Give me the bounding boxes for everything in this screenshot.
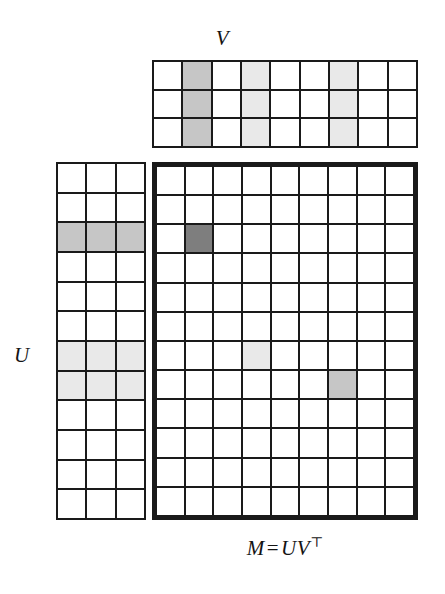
matrix-cell — [272, 196, 299, 223]
matrix-cell — [300, 313, 327, 340]
matrix-cell — [183, 119, 210, 146]
matrix-cell — [300, 196, 327, 223]
matrix-cell — [154, 62, 181, 89]
matrix-cell — [58, 283, 85, 311]
matrix-cell — [157, 400, 184, 427]
matrix-cell — [358, 313, 385, 340]
matrix-cell — [329, 167, 356, 194]
matrix-cell — [214, 313, 241, 340]
matrix-cell — [87, 461, 114, 489]
matrix-cell — [272, 400, 299, 427]
matrix-cell — [117, 253, 144, 281]
matrix-cell — [329, 254, 356, 281]
matrix-cell — [389, 62, 416, 89]
matrix-cell — [117, 283, 144, 311]
matrix-cell — [154, 119, 181, 146]
matrix-cell — [117, 194, 144, 222]
matrix-cell — [272, 371, 299, 398]
matrix-cell — [186, 459, 213, 486]
matrix-cell — [117, 461, 144, 489]
matrix-cell — [87, 342, 114, 370]
matrix-cell — [271, 91, 298, 118]
matrix-cell — [157, 429, 184, 456]
matrix-cell — [329, 225, 356, 252]
matrix-cell — [359, 62, 386, 89]
matrix-cell — [58, 253, 85, 281]
matrix-cell — [87, 312, 114, 340]
matrix-factorization-figure: V U M=UV⊤ — [0, 0, 445, 594]
matrix-cell — [300, 167, 327, 194]
matrix-cell — [272, 429, 299, 456]
matrix-cell — [386, 371, 413, 398]
matrix-cell — [386, 284, 413, 311]
matrix-cell — [329, 342, 356, 369]
matrix-cell — [186, 254, 213, 281]
matrix-cell — [272, 459, 299, 486]
caption-uv-symbol: UV — [281, 536, 310, 560]
matrix-cell — [117, 401, 144, 429]
matrix-cell — [243, 371, 270, 398]
matrix-cell — [329, 196, 356, 223]
matrix-cell — [117, 223, 144, 251]
matrix-cell — [87, 490, 114, 518]
matrix-cell — [157, 225, 184, 252]
matrix-cell — [243, 342, 270, 369]
matrix-cell — [214, 400, 241, 427]
matrix-cell — [87, 223, 114, 251]
matrix-cell — [243, 225, 270, 252]
matrix-cell — [87, 372, 114, 400]
matrix-cell — [186, 284, 213, 311]
matrix-cell — [386, 459, 413, 486]
matrix-m — [152, 162, 418, 520]
matrix-cell — [358, 459, 385, 486]
matrix-cell — [389, 119, 416, 146]
caption-transpose-symbol: ⊤ — [310, 535, 323, 550]
matrix-cell — [186, 429, 213, 456]
matrix-cell — [214, 488, 241, 515]
caption-equals-sign: = — [265, 536, 281, 560]
matrix-cell — [243, 284, 270, 311]
matrix-cell — [386, 196, 413, 223]
matrix-cell — [117, 342, 144, 370]
matrix-cell — [242, 119, 269, 146]
matrix-cell — [214, 284, 241, 311]
matrix-cell — [157, 284, 184, 311]
matrix-cell — [58, 312, 85, 340]
matrix-cell — [58, 194, 85, 222]
matrix-cell — [58, 490, 85, 518]
matrix-cell — [358, 400, 385, 427]
matrix-cell — [157, 196, 184, 223]
matrix-cell — [117, 372, 144, 400]
matrix-cell — [329, 284, 356, 311]
matrix-cell — [117, 490, 144, 518]
matrix-cell — [87, 253, 114, 281]
matrix-cell — [358, 196, 385, 223]
matrix-cell — [301, 62, 328, 89]
matrix-cell — [87, 431, 114, 459]
matrix-cell — [243, 429, 270, 456]
matrix-cell — [242, 91, 269, 118]
matrix-cell — [213, 119, 240, 146]
matrix-cell — [358, 254, 385, 281]
matrix-cell — [329, 400, 356, 427]
matrix-cell — [359, 119, 386, 146]
matrix-cell — [157, 459, 184, 486]
matrix-cell — [154, 91, 181, 118]
matrix-cell — [358, 429, 385, 456]
matrix-v-label: V — [0, 28, 445, 49]
matrix-cell — [386, 225, 413, 252]
matrix-cell — [58, 372, 85, 400]
matrix-cell — [272, 284, 299, 311]
matrix-cell — [186, 342, 213, 369]
matrix-cell — [272, 167, 299, 194]
matrix-cell — [58, 342, 85, 370]
matrix-cell — [214, 429, 241, 456]
matrix-cell — [272, 225, 299, 252]
matrix-cell — [358, 225, 385, 252]
matrix-cell — [243, 313, 270, 340]
matrix-cell — [186, 225, 213, 252]
matrix-cell — [183, 62, 210, 89]
matrix-cell — [358, 488, 385, 515]
matrix-cell — [157, 488, 184, 515]
matrix-cell — [157, 371, 184, 398]
